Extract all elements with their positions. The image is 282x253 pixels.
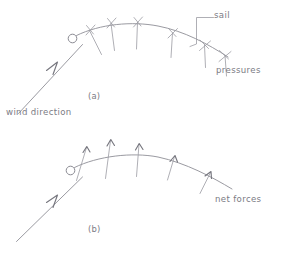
wind-direction-shaft-a (19, 45, 83, 114)
net-force-arrow (137, 145, 140, 177)
sail-curve-b (75, 155, 233, 189)
label-panel-a: (a) (88, 92, 100, 100)
panel-a-group (19, 17, 232, 114)
pressure-vector (205, 45, 206, 68)
mast-circle-a (68, 34, 77, 43)
sail-curve-a (77, 24, 229, 57)
pressure-vector (111, 24, 115, 51)
label-panel-b: (b) (88, 225, 100, 233)
net-force-arrowhead (83, 147, 90, 153)
figure-canvas: sail pressures wind direction (a) net fo… (0, 0, 282, 253)
wind-direction-arrowhead-b (47, 195, 58, 208)
net-force-arrowhead (107, 140, 115, 147)
net-force-arrow (77, 148, 87, 181)
diagram-artwork (0, 0, 282, 253)
pressure-vector (171, 33, 173, 58)
label-net-forces: net forces (215, 195, 261, 204)
panel-b-group (17, 140, 233, 242)
label-sail: sail (214, 11, 230, 20)
mast-circle-b (66, 166, 75, 175)
pressure-vector (137, 23, 138, 50)
wind-direction-shaft-b (17, 177, 83, 242)
net-force-arrows-b (77, 140, 212, 194)
pressure-vector (90, 31, 102, 55)
label-pressures: pressures (216, 66, 261, 75)
net-force-arrow (106, 141, 111, 179)
label-wind-direction: wind direction (6, 108, 72, 117)
net-force-arrowhead (136, 144, 144, 151)
